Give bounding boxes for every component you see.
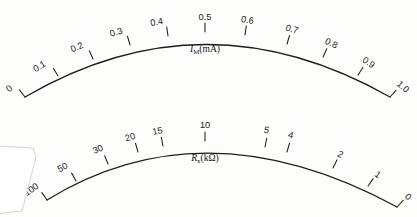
scale-tick bbox=[72, 173, 76, 181]
scale-tick bbox=[358, 67, 363, 75]
scale-tick-label: 30 bbox=[91, 143, 104, 156]
scale-tick-label: 5 bbox=[263, 125, 270, 136]
page-corner-artifact bbox=[0, 146, 36, 214]
scale-tick-label: 0.7 bbox=[284, 22, 299, 35]
scale-tick-label: 2 bbox=[336, 149, 345, 160]
scale-tick bbox=[287, 35, 290, 44]
resistance-scale-name: Rx(kΩ) bbox=[190, 152, 219, 164]
scale-tick bbox=[19, 90, 25, 97]
scale-tick bbox=[53, 68, 58, 76]
scale-tick bbox=[167, 27, 168, 36]
scale-tick-label: 0.6 bbox=[240, 14, 254, 26]
resistance-scale-ticks bbox=[42, 132, 403, 207]
scale-tick-label: 15 bbox=[151, 125, 163, 137]
scale-tick-label: 0.8 bbox=[323, 36, 339, 50]
current-scale-group: 00.10.20.30.40.50.60.70.80.91.0 IM(mA) bbox=[4, 12, 411, 97]
scale-tick bbox=[89, 51, 93, 59]
current-scale-unit: (mA) bbox=[199, 43, 220, 55]
scale-tick bbox=[128, 36, 130, 45]
scale-tick-label: 1.0 bbox=[395, 79, 411, 95]
scale-tick-label: 0.1 bbox=[31, 59, 47, 74]
scale-tick-label: 0.3 bbox=[109, 26, 124, 39]
scale-tick bbox=[105, 156, 108, 164]
resistance-scale-arc bbox=[47, 153, 397, 207]
scale-tick bbox=[390, 90, 396, 97]
scale-tick-label: 0 bbox=[403, 191, 414, 202]
current-scale-ticks bbox=[19, 23, 396, 97]
scale-tick bbox=[245, 26, 246, 35]
scale-tick bbox=[136, 143, 138, 152]
scale-tick-label: 20 bbox=[124, 131, 137, 143]
scale-tick bbox=[42, 193, 47, 200]
scale-tick-label: 0.2 bbox=[69, 40, 85, 54]
scale-tick bbox=[397, 200, 403, 207]
scale-tick-label: 10 bbox=[200, 120, 210, 130]
scale-tick-label: 0.4 bbox=[150, 16, 164, 28]
scale-tick bbox=[265, 138, 267, 147]
meter-scale-figure: 00.10.20.30.40.50.60.70.80.91.0 IM(mA) 1… bbox=[0, 0, 417, 217]
resistance-scale-unit: (kΩ) bbox=[200, 152, 218, 164]
scale-tick-label: 0.5 bbox=[199, 12, 212, 22]
scale-tick bbox=[287, 143, 289, 152]
scale-tick-label: 1 bbox=[373, 169, 383, 180]
scale-tick-label: 50 bbox=[56, 161, 70, 175]
scale-tick-label: 0 bbox=[4, 83, 14, 94]
resistance-scale-group: 100503020151054210 Rx(kΩ) bbox=[22, 120, 413, 207]
scale-tick bbox=[161, 137, 163, 146]
scale-tick bbox=[323, 49, 327, 57]
scale-tick bbox=[333, 160, 337, 168]
scale-tick bbox=[368, 179, 373, 186]
scale-tick-label: 4 bbox=[287, 130, 295, 141]
